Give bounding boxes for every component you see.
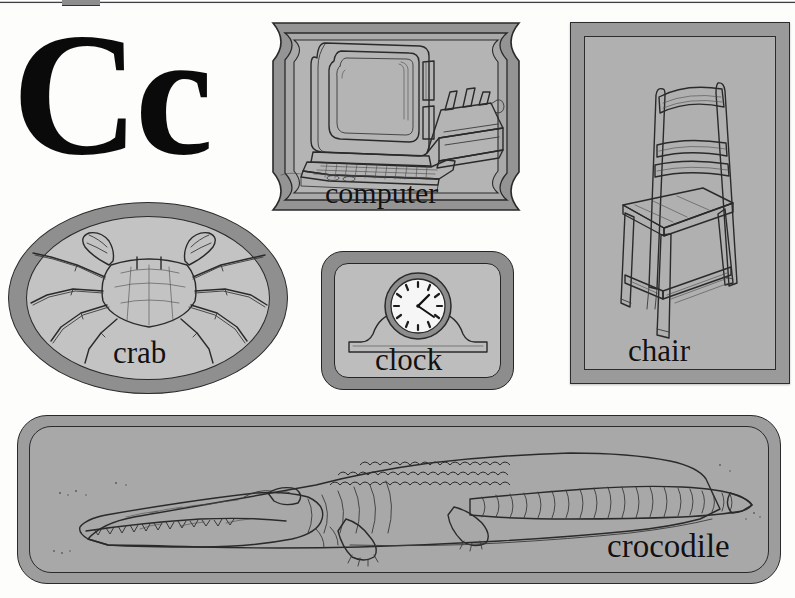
panel-chair[interactable]: chair [570, 22, 790, 384]
panel-crocodile[interactable]: crocodile [17, 415, 781, 584]
label-computer: computer [325, 176, 438, 210]
label-crab: crab [113, 335, 166, 371]
panel-computer[interactable]: computer [241, 20, 551, 213]
page-title-letter: Cc [12, 8, 227, 183]
chair-illustration [585, 37, 777, 371]
label-clock: clock [375, 342, 442, 378]
label-crocodile: crocodile [607, 528, 730, 565]
panel-chair-inner [584, 36, 776, 370]
label-chair: chair [628, 333, 690, 369]
panel-clock[interactable]: clock [321, 251, 514, 390]
alphabet-page: Cc [0, 0, 795, 598]
panel-crab[interactable]: crab [8, 202, 288, 394]
